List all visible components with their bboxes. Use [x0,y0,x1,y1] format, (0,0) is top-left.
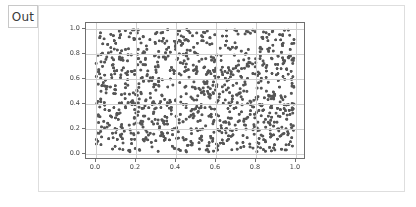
output-cell-container: 0.00.20.40.60.81.00.00.20.40.60.81.0 [38,5,405,192]
gridline-horizontal [86,154,304,155]
x-axis-tick-label: 0.0 [90,164,100,171]
x-axis-tick [295,159,296,162]
y-axis-tick [82,78,85,79]
gridline-vertical [296,23,297,158]
y-axis-tick-label: 0.4 [70,100,80,107]
gridline-horizontal [86,104,304,105]
y-axis-tick [82,153,85,154]
x-axis-tick-label: 0.2 [130,164,140,171]
y-axis-tick [82,128,85,129]
x-axis-tick [215,159,216,162]
gridline-horizontal [86,79,304,80]
gridline-vertical [136,23,137,158]
y-axis-tick-label: 1.0 [70,25,80,32]
x-axis-tick [255,159,256,162]
y-axis-tick-label: 0.6 [70,75,80,82]
plot-axes-frame [85,22,305,159]
output-prompt-label[interactable]: Out [8,5,38,28]
scatter-points-layer [86,23,304,158]
y-axis-tick-label: 0.8 [70,50,80,57]
gridline-horizontal [86,54,304,55]
x-axis-tick-label: 0.6 [210,164,220,171]
x-axis-tick-label: 0.8 [250,164,260,171]
x-axis-tick [95,159,96,162]
output-prompt-text: Out [12,11,34,23]
y-axis-tick-label: 0.0 [70,150,80,157]
y-axis-tick [82,28,85,29]
gridline-vertical [216,23,217,158]
y-axis-tick [82,53,85,54]
gridline-horizontal [86,129,304,130]
x-axis-tick [175,159,176,162]
x-axis-tick-label: 1.0 [290,164,300,171]
gridline-vertical [176,23,177,158]
scatter-plot-figure: 0.00.20.40.60.81.00.00.20.40.60.81.0 [53,14,313,184]
gridline-horizontal [86,29,304,30]
y-axis-tick-label: 0.2 [70,125,80,132]
gridline-vertical [96,23,97,158]
gridline-vertical [256,23,257,158]
x-axis-tick-label: 0.4 [170,164,180,171]
x-axis-tick [135,159,136,162]
y-axis-tick [82,103,85,104]
